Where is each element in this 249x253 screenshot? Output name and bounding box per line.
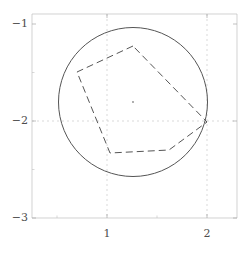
figure-canvas: −1 −2 −3 1 2 [0, 0, 249, 253]
ytick-label-minus3: −3 [6, 212, 28, 223]
series-center-marker [132, 101, 134, 103]
xtick-label-1: 1 [97, 228, 117, 239]
plot-area [0, 0, 249, 253]
ytick-label-minus1: −1 [6, 18, 28, 29]
series-polygon [77, 46, 207, 153]
xtick-label-2: 2 [197, 228, 217, 239]
ytick-label-minus2: −2 [6, 115, 28, 126]
